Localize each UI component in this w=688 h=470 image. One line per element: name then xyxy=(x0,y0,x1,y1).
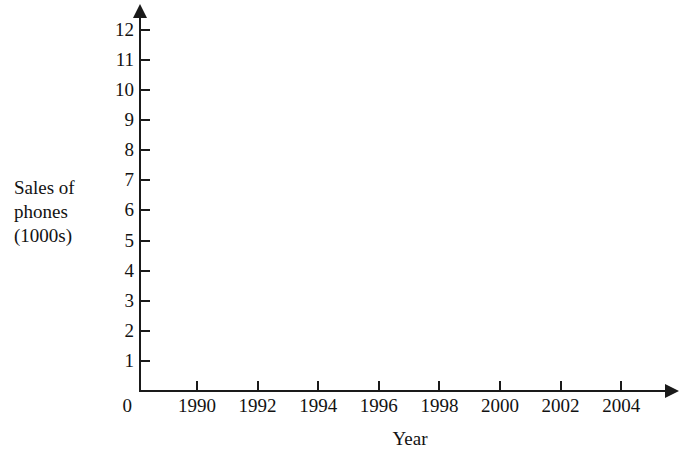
y-axis-tick xyxy=(141,119,150,121)
x-axis-tick-label: 1996 xyxy=(344,396,414,416)
x-axis-tick xyxy=(499,381,501,391)
y-axis-tick-label: 8 xyxy=(94,140,134,159)
y-axis-title: Sales of phones (1000s) xyxy=(14,176,124,248)
x-axis-tick xyxy=(317,381,319,391)
y-axis-tick xyxy=(141,149,150,151)
y-axis-tick-label: 3 xyxy=(94,291,134,310)
x-axis-tick xyxy=(438,381,440,391)
y-axis-tick xyxy=(141,270,150,272)
x-axis-tick-label: 1994 xyxy=(283,396,353,416)
x-axis-tick-label: 2004 xyxy=(586,396,656,416)
chart-canvas: 123456789101112 199019921994199619982000… xyxy=(0,0,688,470)
x-axis-tick-label: 1992 xyxy=(223,396,293,416)
y-axis-tick-label: 9 xyxy=(94,110,134,129)
y-axis-tick xyxy=(141,330,150,332)
y-axis-tick-label: 12 xyxy=(94,20,134,39)
y-axis-tick xyxy=(141,240,150,242)
y-axis-tick xyxy=(141,209,150,211)
y-axis-tick xyxy=(141,59,150,61)
x-axis-title: Year xyxy=(340,428,480,450)
y-axis-tick xyxy=(141,29,150,31)
y-axis-tick xyxy=(141,300,150,302)
y-axis-tick xyxy=(141,179,150,181)
x-axis-tick xyxy=(378,381,380,391)
x-axis-tick-label: 1998 xyxy=(404,396,474,416)
x-axis-tick-label: 2000 xyxy=(465,396,535,416)
origin-zero-label: 0 xyxy=(108,396,132,416)
x-axis-tick xyxy=(257,381,259,391)
x-axis-tick xyxy=(560,381,562,391)
y-axis-tick-label: 2 xyxy=(94,321,134,340)
x-axis-tick xyxy=(196,381,198,391)
y-axis-tick-label: 1 xyxy=(94,351,134,370)
y-axis-tick-label: 10 xyxy=(94,80,134,99)
x-axis-line xyxy=(139,390,676,392)
y-axis-tick-label: 11 xyxy=(94,50,134,69)
y-axis-tick xyxy=(141,360,150,362)
x-axis-tick-label: 1990 xyxy=(162,396,232,416)
x-axis-tick xyxy=(620,381,622,391)
y-axis-tick-label: 4 xyxy=(94,261,134,280)
plot-area xyxy=(141,16,676,390)
y-axis-tick xyxy=(141,89,150,91)
x-axis-tick-label: 2002 xyxy=(526,396,596,416)
